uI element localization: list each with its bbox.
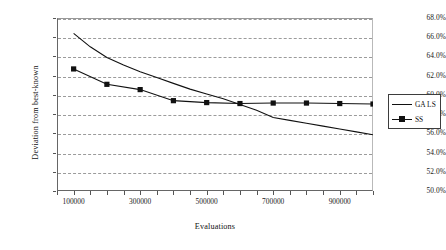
y-tick-label: 52.0% bbox=[394, 168, 446, 176]
legend-item-gals: GA LS bbox=[389, 98, 440, 112]
y-tick-mark bbox=[53, 56, 56, 57]
y-tick-mark bbox=[53, 37, 56, 38]
x-tick-mark bbox=[124, 191, 125, 195]
series-marker-ss bbox=[204, 100, 209, 105]
y-axis-title-text: Deviation from best-known bbox=[31, 38, 40, 188]
series-marker-ss bbox=[104, 82, 109, 87]
y-tick-label: 50.0% bbox=[394, 187, 446, 195]
x-tick-mark bbox=[273, 191, 274, 195]
y-tick-mark bbox=[53, 95, 56, 96]
legend-square-marker-ss bbox=[399, 116, 405, 122]
x-tick-label: 100000 bbox=[44, 197, 104, 206]
series-marker-ss bbox=[138, 87, 143, 92]
x-tick-label: 300000 bbox=[110, 197, 170, 206]
x-tick-mark bbox=[223, 191, 224, 195]
legend-line-sample-gals bbox=[392, 104, 412, 105]
y-tick-mark bbox=[53, 18, 56, 19]
x-tick-mark bbox=[74, 191, 75, 195]
x-tick-mark bbox=[57, 191, 58, 195]
y-tick-label: 56.0% bbox=[394, 129, 446, 137]
x-tick-mark bbox=[107, 191, 108, 195]
y-tick-mark bbox=[53, 133, 56, 134]
x-tick-mark bbox=[323, 191, 324, 195]
series-marker-ss bbox=[237, 101, 242, 106]
x-axis-title-text: Evaluations bbox=[57, 222, 373, 231]
y-tick-mark bbox=[53, 76, 56, 77]
x-tick-mark bbox=[190, 191, 191, 195]
x-tick-mark bbox=[240, 191, 241, 195]
x-tick-mark bbox=[340, 191, 341, 195]
y-tick-label: 54.0% bbox=[394, 149, 446, 157]
x-tick-mark bbox=[90, 191, 91, 195]
legend-label-gals: GA LS bbox=[415, 98, 436, 112]
legend-label-ss: SS bbox=[415, 113, 423, 127]
x-tick-mark bbox=[140, 191, 141, 195]
y-tick-mark bbox=[53, 172, 56, 173]
chart-figure: 50.0%52.0%54.0%56.0%58.0%60.0%62.0%64.0%… bbox=[0, 0, 446, 250]
y-tick-label: 64.0% bbox=[394, 52, 446, 60]
x-tick-label: 500000 bbox=[177, 197, 237, 206]
y-tick-mark bbox=[53, 153, 56, 154]
x-tick-mark bbox=[173, 191, 174, 195]
y-axis-title: Deviation from best-known bbox=[6, 56, 20, 174]
y-tick-label: 62.0% bbox=[394, 72, 446, 80]
y-tick-label: 68.0% bbox=[394, 14, 446, 22]
x-tick-label: 700000 bbox=[243, 197, 303, 206]
x-tick-mark bbox=[356, 191, 357, 195]
x-tick-mark bbox=[373, 191, 374, 195]
legend-item-ss: SS bbox=[389, 113, 440, 127]
x-tick-mark bbox=[257, 191, 258, 195]
chart-legend: GA LS SS bbox=[388, 94, 441, 129]
x-tick-mark bbox=[157, 191, 158, 195]
x-tick-mark bbox=[290, 191, 291, 195]
series-marker-ss bbox=[370, 101, 373, 106]
series-line-ga-ls bbox=[74, 33, 373, 134]
series-marker-ss bbox=[271, 100, 276, 105]
series-marker-ss bbox=[71, 66, 76, 71]
x-tick-label: 900000 bbox=[310, 197, 370, 206]
data-series-layer bbox=[57, 18, 373, 191]
y-tick-label: 66.0% bbox=[394, 33, 446, 41]
series-marker-ss bbox=[337, 101, 342, 106]
y-tick-mark bbox=[53, 191, 56, 192]
x-tick-mark bbox=[207, 191, 208, 195]
y-tick-mark bbox=[53, 114, 56, 115]
series-marker-ss bbox=[304, 100, 309, 105]
x-tick-mark bbox=[306, 191, 307, 195]
series-marker-ss bbox=[171, 98, 176, 103]
